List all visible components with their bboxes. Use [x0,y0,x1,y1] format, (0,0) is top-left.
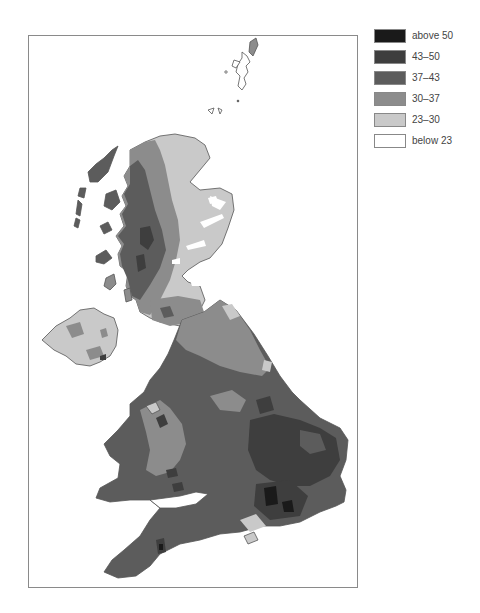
legend-item-23-30: 23–30 [374,112,480,127]
map-legend: above 50 43–50 37–43 30–37 23–30 below 2… [374,28,480,154]
legend-label: above 50 [412,30,453,41]
orkney-islands [208,108,222,114]
legend-item-30-37: 30–37 [374,91,480,106]
legend-label: below 23 [412,135,452,146]
legend-item-above-50: above 50 [374,28,480,43]
shetland-islands [225,38,258,102]
legend-swatch [374,134,406,148]
legend-swatch [374,113,406,127]
legend-label: 37–43 [412,72,440,83]
legend-swatch [374,50,406,64]
legend-swatch [374,92,406,106]
northern-ireland [42,308,118,366]
legend-item-below-23: below 23 [374,133,480,148]
outer-hebrides [74,146,118,228]
legend-swatch [374,71,406,85]
legend-item-43-50: 43–50 [374,49,480,64]
legend-item-37-43: 37–43 [374,70,480,85]
legend-label: 23–30 [412,114,440,125]
legend-label: 30–37 [412,93,440,104]
legend-swatch [374,29,406,43]
legend-label: 43–50 [412,51,440,62]
